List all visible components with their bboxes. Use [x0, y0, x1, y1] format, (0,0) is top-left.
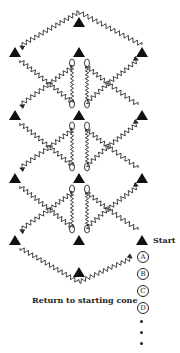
cone-icon [73, 110, 85, 120]
wavy-path [70, 129, 73, 164]
cone-icon [73, 267, 85, 277]
cone-icon [9, 47, 21, 57]
cone-icon [73, 235, 85, 245]
player-d: D [137, 302, 149, 314]
wavy-path [20, 248, 79, 282]
cone-icon [73, 173, 85, 183]
continuation-dot [140, 331, 143, 334]
wavy-path [86, 208, 108, 229]
wavy-path [20, 186, 74, 228]
cone-icon [9, 110, 21, 120]
cone-icon [73, 17, 85, 27]
wavy-path [108, 59, 138, 85]
wavy-path [108, 185, 138, 210]
wavy-path [70, 66, 73, 101]
wavy-path [108, 84, 138, 106]
wavy-path [85, 66, 88, 101]
wavy-path [85, 192, 88, 226]
wavy-path [86, 146, 108, 167]
player-c: C [137, 285, 149, 297]
wavy-path [50, 128, 73, 148]
cone-icon [9, 173, 21, 183]
continuation-dot [140, 320, 143, 323]
wavy-path [20, 11, 79, 48]
wavy-path [20, 83, 50, 107]
cone-icon [73, 47, 85, 57]
cone-icon [136, 47, 148, 57]
wavy-path [50, 65, 73, 85]
wavy-path [108, 122, 138, 148]
return-label: Return to starting cone [32, 295, 138, 305]
cone-icon [136, 110, 148, 120]
loop-path [85, 59, 90, 67]
loop-path [85, 185, 90, 193]
player-b: B [137, 268, 149, 280]
wavy-path [108, 209, 138, 230]
wavy-path [70, 192, 73, 226]
cones [9, 17, 148, 277]
wavy-path [20, 60, 74, 103]
loop-path [85, 122, 90, 130]
wavy-path [108, 147, 138, 169]
player-a: A [137, 251, 149, 263]
cone-icon [9, 235, 21, 245]
wavy-path [20, 123, 74, 166]
wavy-path [20, 146, 50, 170]
wavy-path [79, 12, 142, 45]
continuation-dot [140, 342, 143, 345]
cone-icon [136, 173, 148, 183]
wavy-path [85, 129, 88, 164]
wavy-path [20, 208, 50, 231]
start-label: Start [153, 235, 176, 245]
wavy-path [86, 83, 108, 104]
wavy-path [79, 257, 132, 284]
cone-icon [136, 235, 148, 245]
